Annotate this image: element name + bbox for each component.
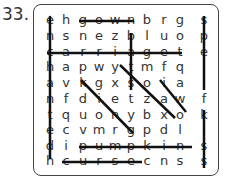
- grid-letter: h: [58, 12, 74, 28]
- grid-letter: w: [107, 12, 123, 28]
- grid-letter: u: [91, 138, 107, 154]
- grid-letter: i: [91, 91, 107, 107]
- grid-letter: u: [75, 107, 91, 123]
- grid-letter: a: [58, 44, 74, 60]
- grid-letter: l: [196, 59, 212, 75]
- grid-letter: s: [123, 75, 139, 91]
- grid-letter: p: [75, 59, 91, 75]
- grid-letter: d: [75, 91, 91, 107]
- grid-letter: a: [123, 44, 139, 60]
- grid-letter: f: [58, 91, 74, 107]
- grid-letter: u: [75, 153, 91, 169]
- grid-letter: s: [196, 12, 212, 28]
- grid-letter: o: [91, 12, 107, 28]
- grid-letter: m: [139, 59, 155, 75]
- grid-letter: g: [91, 75, 107, 91]
- grid-letter: f: [196, 91, 212, 107]
- grid-letter: g: [123, 122, 139, 138]
- grid-letter: t: [123, 59, 139, 75]
- grid-letter: n: [42, 91, 58, 107]
- grid-letter: n: [42, 28, 58, 44]
- grid-letter: p: [196, 28, 212, 44]
- grid-letter: h: [42, 153, 58, 169]
- grid-letter: e: [42, 12, 58, 28]
- grid-letter: a: [172, 75, 188, 91]
- grid-letter: r: [156, 12, 172, 28]
- grid-letter: e: [107, 91, 123, 107]
- grid-letter: r: [91, 44, 107, 60]
- grid-letter: e: [123, 153, 139, 169]
- grid-letter: i: [156, 138, 172, 154]
- grid-letter: q: [58, 107, 74, 123]
- grid-letter: l: [196, 75, 212, 91]
- grid-letter: n: [156, 153, 172, 169]
- grid-letter: c: [58, 122, 74, 138]
- grid-letter: a: [42, 75, 58, 91]
- grid-letter: c: [139, 153, 155, 169]
- grid-letter: k: [196, 107, 212, 123]
- grid-letter: m: [91, 122, 107, 138]
- grid-letter: b: [123, 28, 139, 44]
- grid-letter: b: [139, 107, 155, 123]
- grid-letter: s: [196, 153, 212, 169]
- grid-letter: o: [91, 107, 107, 123]
- grid-letter: s: [196, 138, 212, 154]
- grid-letter: n: [123, 12, 139, 28]
- grid-letter: p: [123, 138, 139, 154]
- grid-letter: c: [58, 153, 74, 169]
- grid-letter: m: [107, 138, 123, 154]
- grid-letter: e: [42, 122, 58, 138]
- grid-letter: w: [172, 91, 188, 107]
- grid-letter: i: [196, 122, 212, 138]
- grid-letter: g: [172, 12, 188, 28]
- grid-letter: v: [58, 75, 74, 91]
- grid-letter: y: [123, 107, 139, 123]
- grid-letter: e: [196, 44, 212, 60]
- grid-letter: s: [172, 153, 188, 169]
- grid-letter: r: [107, 122, 123, 138]
- grid-letter: k: [139, 138, 155, 154]
- grid-letter: d: [156, 122, 172, 138]
- grid-letter: e: [91, 28, 107, 44]
- grid-letter: t: [172, 44, 188, 60]
- question-number: 33.: [2, 4, 29, 24]
- grid-letter: s: [58, 28, 74, 44]
- grid-letter: e: [156, 44, 172, 60]
- grid-letter: i: [156, 75, 172, 91]
- grid-letter: z: [107, 28, 123, 44]
- grid-letter: n: [75, 28, 91, 44]
- grid-letter: l: [172, 122, 188, 138]
- grid-letter: l: [139, 28, 155, 44]
- grid-letter: o: [172, 107, 188, 123]
- grid-letter: p: [75, 138, 91, 154]
- grid-letter: t: [42, 107, 58, 123]
- grid-letter: z: [139, 91, 155, 107]
- grid-letter: s: [107, 153, 123, 169]
- grid-letter: o: [172, 28, 188, 44]
- grid-letter: x: [156, 107, 172, 123]
- grid-letter: q: [172, 59, 188, 75]
- grid-letter: i: [58, 138, 74, 154]
- grid-letter: x: [107, 75, 123, 91]
- grid-letter: n: [172, 138, 188, 154]
- grid-letter: r: [75, 44, 91, 60]
- grid-letter: r: [91, 153, 107, 169]
- grid-letter: k: [75, 75, 91, 91]
- grid-letter: a: [156, 91, 172, 107]
- grid-letter: n: [107, 107, 123, 123]
- grid-letter: p: [139, 122, 155, 138]
- grid-letter: f: [156, 59, 172, 75]
- grid-letter: c: [42, 44, 58, 60]
- grid-letter: g: [75, 12, 91, 28]
- grid-letter: b: [139, 12, 155, 28]
- grid-letter: o: [139, 75, 155, 91]
- grid-letter: a: [58, 59, 74, 75]
- grid-letter: h: [42, 59, 58, 75]
- grid-letter: i: [107, 44, 123, 60]
- grid-letter: g: [139, 44, 155, 60]
- grid-letter: y: [107, 59, 123, 75]
- grid-letter: t: [123, 91, 139, 107]
- grid-letter: v: [75, 122, 91, 138]
- grid-letter: d: [42, 138, 58, 154]
- grid-letter: u: [156, 28, 172, 44]
